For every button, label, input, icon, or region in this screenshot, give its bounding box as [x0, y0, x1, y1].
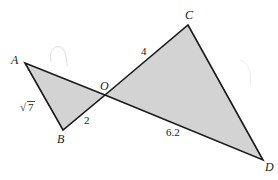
vertex-label-d: D: [264, 160, 274, 174]
segment-label-ob: 2: [84, 114, 90, 126]
triangle-aob: [25, 63, 105, 130]
faint-arc-mark-left: [51, 47, 68, 66]
radical-sign: √: [20, 101, 27, 113]
vertex-label-a: A: [10, 53, 19, 67]
segment-label-od: 6.2: [166, 126, 180, 138]
geometry-diagram: A B O C D √ 7 2 4 6.2: [0, 0, 278, 180]
vertex-label-c: C: [185, 8, 194, 22]
segment-label-ab: √ 7: [20, 101, 35, 113]
radicand: 7: [28, 101, 34, 113]
faint-arc-mark-right: [240, 60, 251, 85]
triangle-cod: [105, 25, 263, 160]
vertex-label-o: O: [100, 79, 109, 93]
vertex-label-b: B: [57, 132, 65, 146]
segment-label-oc: 4: [141, 45, 147, 57]
